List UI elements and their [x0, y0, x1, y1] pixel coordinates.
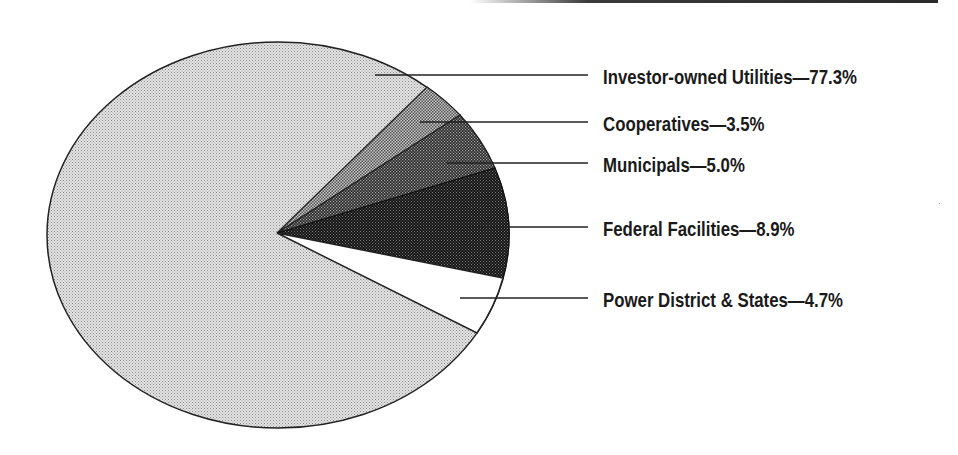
label-power-district-states: Power District & States—4.7%	[603, 289, 843, 310]
label-federal-facilities: Federal Facilities—8.9%	[603, 218, 794, 239]
label-investor-owned-utilities: Investor-owned Utilities—77.3%	[603, 66, 857, 87]
label-municipals: Municipals—5.0%	[603, 154, 745, 175]
label-cooperatives: Cooperatives—3.5%	[603, 113, 765, 134]
speck	[939, 203, 940, 204]
